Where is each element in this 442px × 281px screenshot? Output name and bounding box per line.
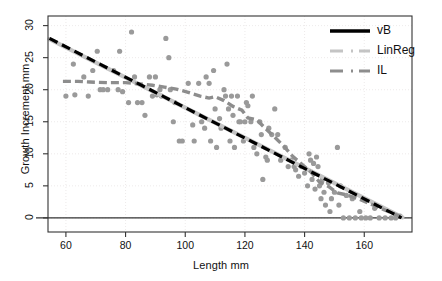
data-point (217, 116, 222, 121)
data-point (223, 94, 228, 99)
data-point (208, 138, 213, 143)
grid-lines (48, 16, 412, 232)
data-point (359, 215, 364, 220)
data-point (314, 154, 319, 159)
legend-label-il: IL (377, 63, 387, 77)
chart-figure: Length mm Growth Increment mm 6080100120… (0, 0, 442, 281)
data-point (166, 55, 171, 60)
data-point (129, 29, 134, 34)
data-point (265, 158, 270, 163)
data-point (357, 209, 362, 214)
data-point (254, 151, 259, 156)
data-point (286, 164, 291, 169)
y-tick-label: 20 (23, 75, 35, 103)
data-point (142, 113, 147, 118)
x-tick-label: 160 (347, 239, 381, 251)
data-point (315, 164, 320, 169)
data-point (86, 94, 91, 99)
x-tick-label: 60 (49, 239, 83, 251)
legend-label-linreg: LinReg (377, 43, 415, 57)
data-point (153, 74, 158, 79)
data-point (230, 113, 235, 118)
data-point (323, 202, 328, 207)
y-tick-label: 10 (23, 139, 35, 167)
x-tick-label: 80 (109, 239, 143, 251)
data-point (116, 87, 121, 92)
data-point (221, 87, 226, 92)
data-point (377, 215, 382, 220)
data-point (120, 89, 125, 94)
data-point (251, 145, 256, 150)
x-axis-title: Length mm (0, 259, 442, 271)
data-point (327, 209, 332, 214)
data-point (272, 106, 277, 111)
data-point (163, 36, 168, 41)
data-point (132, 74, 137, 79)
legend-label-vb: vB (377, 23, 391, 37)
data-point (190, 122, 195, 127)
data-point (259, 132, 264, 137)
data-point (318, 196, 323, 201)
data-point (117, 49, 122, 54)
data-point (212, 106, 217, 111)
data-point (105, 87, 110, 92)
axes-frame (48, 16, 412, 232)
data-point (196, 81, 201, 86)
data-point (72, 92, 77, 97)
y-tick-label: 30 (23, 11, 35, 39)
y-tick-label: 15 (23, 107, 35, 135)
data-point (135, 100, 140, 105)
data-point (309, 177, 314, 182)
y-tick-label: 25 (23, 43, 35, 71)
x-tick-label: 100 (168, 239, 202, 251)
data-point (229, 94, 234, 99)
data-point (204, 74, 209, 79)
data-point (211, 68, 216, 73)
data-point (250, 94, 255, 99)
data-point (171, 119, 176, 124)
data-point (139, 100, 144, 105)
data-point (306, 151, 311, 156)
data-point (101, 87, 106, 92)
axis-ticks (43, 26, 364, 237)
data-point (81, 74, 86, 79)
data-point (227, 138, 232, 143)
data-point (235, 94, 240, 99)
data-point (312, 186, 317, 191)
data-point (245, 103, 250, 108)
data-point (238, 119, 243, 124)
x-tick-label: 120 (228, 239, 262, 251)
data-point (226, 106, 231, 111)
data-point (214, 145, 219, 150)
data-point (260, 177, 265, 182)
data-point (202, 126, 207, 131)
data-point (389, 215, 394, 220)
data-point (321, 190, 326, 195)
data-point (90, 68, 95, 73)
data-point (296, 174, 301, 179)
y-tick-label: 0 (23, 203, 35, 231)
data-point (63, 94, 68, 99)
x-tick-label: 140 (288, 239, 322, 251)
data-point (363, 215, 368, 220)
data-point (335, 145, 340, 150)
data-point (224, 61, 229, 66)
data-point (147, 74, 152, 79)
data-point (71, 61, 76, 66)
data-point (192, 138, 197, 143)
data-point (207, 81, 212, 86)
data-point (293, 167, 298, 172)
data-point (336, 202, 341, 207)
data-point (180, 138, 185, 143)
y-tick-label: 5 (23, 171, 35, 199)
data-point (242, 119, 247, 124)
data-point (126, 100, 131, 105)
data-point (186, 81, 191, 86)
data-point (95, 49, 100, 54)
data-point (329, 196, 334, 201)
data-point (302, 170, 307, 175)
data-point (232, 145, 237, 150)
data-point (199, 119, 204, 124)
data-point (311, 161, 316, 166)
data-point (383, 215, 388, 220)
